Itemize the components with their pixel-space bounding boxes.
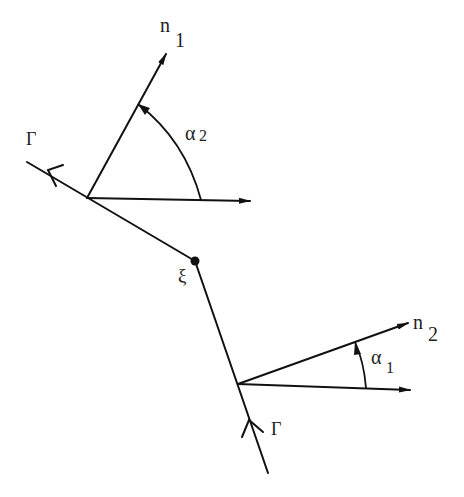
label-n1-base: n [160, 14, 170, 36]
labels: n 1 n 2 α 2 α 1 Γ Γ ξ [26, 14, 438, 439]
label-alpha1-base: α [371, 346, 382, 368]
label-alpha2-sub: 2 [199, 127, 207, 144]
lower-normal-group [238, 323, 410, 390]
corner-point-xi [191, 257, 200, 266]
label-gamma-bottom: Γ [271, 419, 281, 439]
curve-gamma [27, 162, 268, 473]
label-alpha1-sub: 1 [386, 359, 394, 376]
label-n2-sub: 2 [428, 323, 438, 345]
label-n2-base: n [413, 311, 423, 333]
label-n1-sub: 1 [175, 29, 185, 51]
label-xi: ξ [178, 265, 187, 286]
normal-n1-arrow [87, 54, 166, 198]
upper-horizontal-arrow [87, 198, 250, 201]
gamma-lower-segment [195, 261, 268, 473]
geometry-diagram: n 1 n 2 α 2 α 1 Γ Γ ξ [0, 0, 464, 497]
angle-alpha2-arc [138, 104, 201, 200]
alpha1-arrow-icon [354, 342, 361, 355]
normal-n2-arrow [238, 323, 408, 384]
upper-normal-group [87, 54, 250, 201]
label-gamma-top: Γ [26, 129, 36, 149]
label-alpha2-base: α [185, 122, 196, 144]
lower-horizontal-arrow [238, 384, 410, 390]
diagram-canvas: n 1 n 2 α 2 α 1 Γ Γ ξ [0, 0, 464, 497]
